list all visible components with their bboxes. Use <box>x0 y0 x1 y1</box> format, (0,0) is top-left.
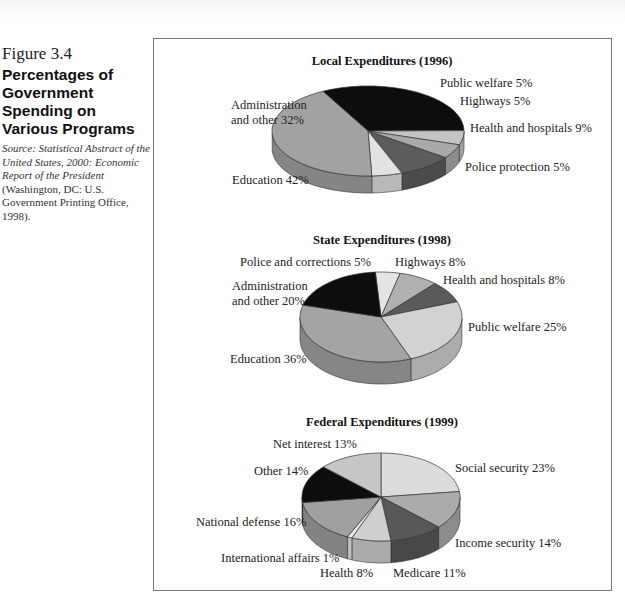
pie-side-health <box>352 538 391 563</box>
slice-label-line: Other 14% <box>254 464 309 478</box>
slice-label-social-security: Social security 23% <box>455 461 555 475</box>
slice-label-administration-and-other: Administrationand other 32% <box>231 98 307 127</box>
slice-label-public-welfare: Public welfare 5% <box>440 76 532 90</box>
slice-label-line: and other 20% <box>232 294 305 308</box>
pie-charts: Local Expenditures (1996)Administrationa… <box>0 0 625 612</box>
slice-label-line: Medicare 11% <box>393 566 466 580</box>
slice-label-other: Other 14% <box>254 464 309 478</box>
slice-label-income-security: Income security 14% <box>455 536 561 550</box>
slice-label-line: Police and corrections 5% <box>240 255 371 269</box>
slice-label-line: Administration <box>232 279 308 293</box>
slice-label-line: National defense 16% <box>196 515 306 529</box>
slice-label-line: Administration <box>231 98 307 112</box>
pie-top <box>302 453 460 541</box>
slice-label-education: Education 36% <box>230 352 307 366</box>
slice-label-public-welfare: Public welfare 25% <box>468 320 567 334</box>
slice-label-international-affairs: International affairs 1% <box>221 551 339 565</box>
slice-label-medicare: Medicare 11% <box>393 566 466 580</box>
slice-label-line: Health and hospitals 9% <box>470 121 592 135</box>
slice-label-line: Highways 8% <box>395 255 465 269</box>
pie-side-international-affairs <box>347 537 352 560</box>
slice-label-health-and-hospitals: Health and hospitals 8% <box>443 273 565 287</box>
slice-label-line: Highways 5% <box>460 94 530 108</box>
slice-label-national-defense: National defense 16% <box>196 515 306 529</box>
slice-label-health: Health 8% <box>320 566 373 580</box>
slice-label-line: Public welfare 25% <box>468 320 567 334</box>
slice-label-police-and-corrections: Police and corrections 5% <box>240 255 371 269</box>
slice-label-line: Education 42% <box>232 173 309 187</box>
chart-title: Local Expenditures (1996) <box>312 54 453 68</box>
pie-chart-2: State Expenditures (1998)Police and corr… <box>230 233 567 384</box>
slice-label-line: Income security 14% <box>455 536 561 550</box>
slice-label-administration-and-other: Administrationand other 20% <box>232 279 308 308</box>
slice-label-highways: Highways 5% <box>460 94 530 108</box>
slice-label-line: Police protection 5% <box>465 160 570 174</box>
slice-label-education: Education 42% <box>232 173 309 187</box>
pie-chart-3: Federal Expenditures (1999)Social securi… <box>196 415 561 580</box>
slice-label-line: Health and hospitals 8% <box>443 273 565 287</box>
slice-label-net-interest: Net interest 13% <box>273 437 357 451</box>
pie-chart-1: Local Expenditures (1996)Administrationa… <box>231 54 592 193</box>
slice-label-health-and-hospitals: Health and hospitals 9% <box>470 121 592 135</box>
pie-top <box>300 272 462 362</box>
chart-title: Federal Expenditures (1999) <box>306 415 458 429</box>
slice-label-line: Net interest 13% <box>273 437 357 451</box>
slice-label-highways: Highways 8% <box>395 255 465 269</box>
chart-title: State Expenditures (1998) <box>313 233 451 247</box>
slice-label-line: International affairs 1% <box>221 551 339 565</box>
slice-label-line: Social security 23% <box>455 461 555 475</box>
pie-slice-social-security <box>381 453 459 497</box>
slice-label-line: Public welfare 5% <box>440 76 532 90</box>
slice-label-line: Health 8% <box>320 566 373 580</box>
slice-label-police-protection: Police protection 5% <box>465 160 570 174</box>
slice-label-line: Education 36% <box>230 352 307 366</box>
slice-label-line: and other 32% <box>231 113 304 127</box>
